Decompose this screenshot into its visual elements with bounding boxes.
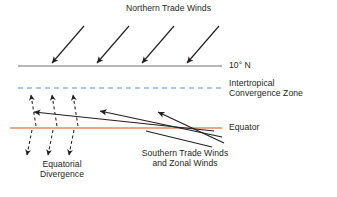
northern-trade-wind-arrows [52,26,219,63]
reference-lines [10,66,222,128]
equatorial-divergence-up-arrows [31,95,78,126]
divergence-down-arrow [48,130,53,155]
divergence-down-arrow [27,130,32,155]
northern-trade-wind-arrow [52,26,84,63]
northern-trade-wind-arrow [142,26,174,63]
divergence-up-arrow [52,95,57,126]
divergence-up-arrow [31,95,36,126]
northern-trade-wind-arrow [187,26,219,63]
equatorial-divergence-down-arrows [27,130,74,155]
label-intertropical-convergence-zone: Intertropical Convergence Zone [229,78,303,99]
divergence-down-arrow [69,130,74,155]
northern-trade-wind-arrow [97,26,129,63]
title-northern-trade-winds: Northern Trade Winds [0,3,337,13]
label-ten-degrees-north: 10° N [229,60,251,70]
label-equator: Equator [229,122,259,132]
divergence-up-arrow [73,95,78,126]
wind-pattern-diagram: Northern Trade Winds 10° N Intertropical… [0,0,337,197]
label-equatorial-divergence: Equatorial Divergence [12,159,112,180]
label-southern-trade-winds: Southern Trade Winds and Zonal Winds [130,148,240,169]
zonal-wind-line [146,131,212,147]
